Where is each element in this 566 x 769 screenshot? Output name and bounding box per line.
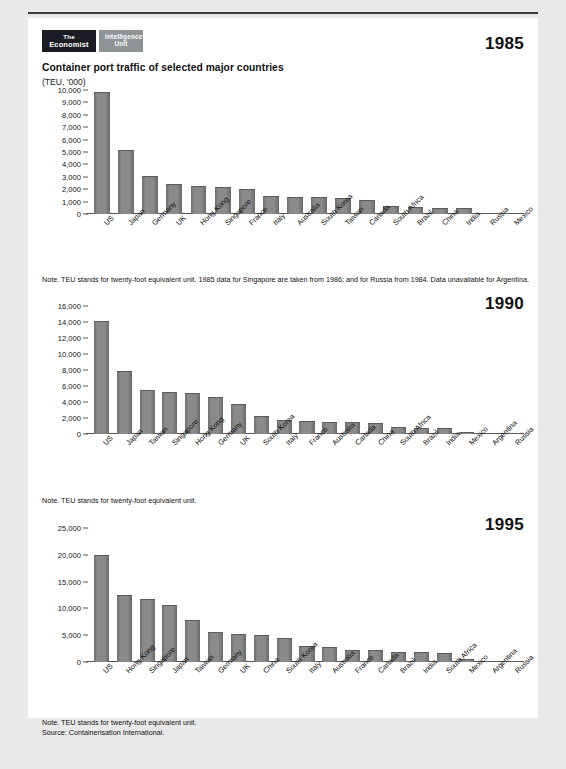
note-1995: Note. TEU stands for twenty-foot equival… bbox=[42, 718, 196, 737]
x-label-slot: Hong Kong bbox=[186, 216, 210, 262]
note-1995-line2: Source: Containerisation International. bbox=[42, 728, 196, 738]
x-label-slot: South Korea bbox=[307, 216, 331, 262]
y-tick-label: 6,000 bbox=[62, 135, 81, 144]
x-label-slot: Japan bbox=[113, 436, 136, 482]
x-label-slot: South Africa bbox=[387, 436, 410, 482]
bars-1990 bbox=[90, 306, 524, 434]
y-tick-1985-3000: 3,000 bbox=[62, 172, 88, 181]
x-label-slot: Hong Kong bbox=[181, 436, 204, 482]
y-tick-1985-4000: 4,000 bbox=[62, 160, 88, 169]
bar-slot bbox=[387, 528, 410, 662]
plot-area-1985: 01,0002,0003,0004,0005,0006,0007,0008,00… bbox=[42, 90, 524, 214]
y-tick-mark bbox=[83, 554, 88, 555]
x-label-slot: US bbox=[90, 216, 114, 262]
y-tick-1990-8000: 8,000 bbox=[62, 366, 88, 375]
y-tick-label: 4,000 bbox=[62, 398, 81, 407]
y-tick-label: 12,000 bbox=[58, 334, 81, 343]
bar-1995-us[interactable] bbox=[94, 555, 109, 662]
bar-1985-germany[interactable] bbox=[142, 176, 158, 214]
y-tick-1990-16000: 16,000 bbox=[58, 302, 88, 311]
y-tick-label: 5,000 bbox=[62, 631, 81, 640]
bar-slot bbox=[318, 528, 341, 662]
x-label-slot: Russia bbox=[476, 216, 500, 262]
y-tick-mark bbox=[83, 127, 88, 128]
bar-1995-taiwan[interactable] bbox=[185, 620, 200, 662]
y-tick-1990-14000: 14,000 bbox=[58, 318, 88, 327]
y-tick-1985-1000: 1,000 bbox=[62, 197, 88, 206]
x-label-slot: Canada bbox=[355, 216, 379, 262]
bar-slot bbox=[113, 528, 136, 662]
chart-1995: 05,00010,00015,00020,00025,000 USHong Ko… bbox=[28, 528, 538, 708]
bars-1995 bbox=[90, 528, 524, 662]
y-tick-1995-0: 0 bbox=[77, 658, 88, 667]
y-tick-label: 0 bbox=[77, 658, 81, 667]
page-title: Container port traffic of selected major… bbox=[42, 62, 284, 73]
bar-1995-hong-kong[interactable] bbox=[117, 595, 132, 662]
x-label-slot: Mexico bbox=[456, 436, 479, 482]
y-tick-1995-20000: 20,000 bbox=[58, 550, 88, 559]
bar-1995-australia[interactable] bbox=[322, 647, 337, 662]
y-tick-1995-5000: 5,000 bbox=[62, 631, 88, 640]
bar-1990-france[interactable] bbox=[299, 421, 314, 434]
y-tick-1995-10000: 10,000 bbox=[58, 604, 88, 613]
chart-1985: 01,0002,0003,0004,0005,0006,0007,0008,00… bbox=[28, 90, 538, 260]
x-label-slot: India bbox=[410, 664, 433, 710]
bar-1990-south-korea[interactable] bbox=[254, 416, 269, 434]
x-label-slot: Brazil bbox=[403, 216, 427, 262]
bar-slot bbox=[227, 306, 250, 434]
x-label-slot: South Korea bbox=[273, 664, 296, 710]
bar-1985-us[interactable] bbox=[94, 92, 110, 215]
x-label-slot: Russia bbox=[501, 436, 524, 482]
economist-logo-line2: Economist bbox=[48, 41, 90, 49]
x-label-slot: France bbox=[341, 664, 364, 710]
x-label-slot: Canada bbox=[341, 436, 364, 482]
y-tick-mark bbox=[83, 322, 88, 323]
note-1990: Note. TEU stands for twenty-foot equival… bbox=[42, 496, 196, 506]
bar-slot bbox=[136, 306, 159, 434]
x-label-slot: India bbox=[433, 436, 456, 482]
x-axis-labels-1990: USJapanTaiwanSingaporeHong KongGermanyUK… bbox=[90, 436, 524, 482]
bar-slot bbox=[204, 306, 227, 434]
y-axis-1990: 02,0004,0006,0008,00010,00012,00014,0001… bbox=[42, 306, 88, 434]
bar-slot bbox=[341, 528, 364, 662]
x-label-slot: Taiwan bbox=[181, 664, 204, 710]
bar-slot bbox=[433, 528, 456, 662]
bar-slot bbox=[355, 90, 379, 214]
x-label-slot: Italy bbox=[259, 216, 283, 262]
bar-slot bbox=[387, 306, 410, 434]
y-tick-1985-10000: 10,000 bbox=[58, 86, 88, 95]
x-label-slot: US bbox=[90, 664, 113, 710]
x-label-slot: Australia bbox=[318, 436, 341, 482]
y-axis-1985: 01,0002,0003,0004,0005,0006,0007,0008,00… bbox=[42, 90, 88, 214]
eiu-logo-line2: Unit bbox=[105, 41, 137, 48]
y-tick-mark bbox=[83, 114, 88, 115]
bar-slot bbox=[138, 90, 162, 214]
y-tick-1990-2000: 2,000 bbox=[62, 414, 88, 423]
x-label-slot: Taiwan bbox=[136, 436, 159, 482]
economist-eiu-logo: The Economist Intelligence Unit bbox=[42, 30, 143, 52]
x-label-slot: France bbox=[296, 436, 319, 482]
bar-1995-china[interactable] bbox=[254, 635, 269, 662]
x-label-slot: China bbox=[428, 216, 452, 262]
bar-1990-taiwan[interactable] bbox=[140, 390, 155, 434]
y-tick-label: 10,000 bbox=[58, 350, 81, 359]
bar-slot bbox=[235, 90, 259, 214]
bar-1985-japan[interactable] bbox=[118, 150, 134, 214]
bar-1995-south-africa[interactable] bbox=[437, 653, 452, 662]
bar-1990-japan[interactable] bbox=[117, 371, 132, 434]
bar-slot bbox=[204, 528, 227, 662]
bar-1990-us[interactable] bbox=[94, 321, 109, 434]
y-tick-label: 0 bbox=[77, 210, 81, 219]
y-tick-1985-6000: 6,000 bbox=[62, 135, 88, 144]
y-tick-label: 9,000 bbox=[62, 98, 81, 107]
bar-slot bbox=[456, 306, 479, 434]
y-tick-label: 20,000 bbox=[58, 550, 81, 559]
bar-1985-australia[interactable] bbox=[287, 197, 303, 214]
bar-slot bbox=[181, 306, 204, 434]
bar-1985-hong-kong[interactable] bbox=[191, 186, 207, 214]
x-label-slot: Germany bbox=[204, 436, 227, 482]
x-label-slot: South Africa bbox=[433, 664, 456, 710]
y-tick-mark bbox=[83, 189, 88, 190]
y-tick-mark bbox=[83, 338, 88, 339]
bar-slot bbox=[250, 528, 273, 662]
